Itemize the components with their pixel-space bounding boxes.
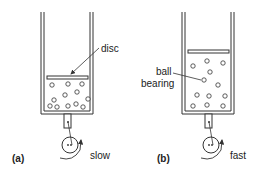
shaft-b (205, 114, 212, 128)
speed-label-fast: fast (230, 150, 246, 161)
panel-a: disc slow (a) (12, 12, 119, 164)
ball-bearings-a (48, 82, 90, 109)
diagram-canvas: disc slow (a) b (0, 0, 254, 172)
ball-bearing-pointer-line (173, 73, 201, 80)
disc-label: disc (101, 43, 119, 54)
disc-b (188, 50, 229, 53)
rod-pin-icon (208, 121, 210, 123)
ball-label: ball (156, 66, 172, 77)
panel-label-b: (b) (157, 153, 170, 164)
wheel-b (203, 137, 219, 153)
bearing-label: bearing (141, 78, 174, 89)
panel-b: ball bearing fast (b) (141, 12, 246, 164)
ball-bearings-b (191, 59, 227, 108)
rod-pin-icon (67, 121, 69, 123)
disc-pointer-arrow (71, 48, 99, 74)
wheel-pin-icon (208, 144, 210, 146)
wheel-pin-icon (67, 144, 69, 146)
panel-label-a: (a) (12, 153, 24, 164)
speed-label-slow: slow (90, 150, 111, 161)
shaft-a (64, 114, 71, 128)
disc-a (47, 76, 88, 79)
wheel-a (62, 137, 78, 153)
container-a (41, 12, 93, 114)
